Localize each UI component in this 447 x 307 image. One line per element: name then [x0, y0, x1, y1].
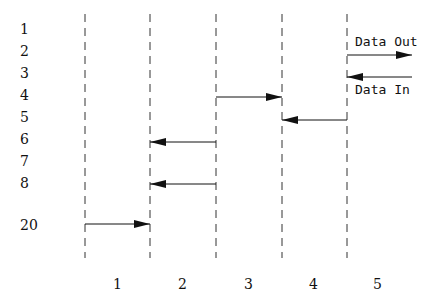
- row-label: 8: [20, 175, 29, 191]
- row-label: 6: [20, 131, 29, 147]
- column-lines: [85, 14, 347, 258]
- column-label: 2: [178, 276, 187, 292]
- column-label: 3: [244, 276, 253, 292]
- arrows: [85, 55, 412, 224]
- row-label: 2: [20, 43, 29, 59]
- data-in-label: Data In: [355, 82, 410, 98]
- row-label: 4: [20, 87, 29, 103]
- row-label: 3: [20, 65, 29, 81]
- row-label: 1: [20, 21, 29, 37]
- row-label: 5: [20, 109, 29, 125]
- row-label: 7: [20, 153, 29, 169]
- column-label: 1: [113, 276, 122, 292]
- data-out-label: Data Out: [355, 34, 418, 50]
- column-label: 5: [373, 276, 382, 292]
- row-label: 20: [20, 217, 38, 233]
- column-label: 4: [309, 276, 318, 292]
